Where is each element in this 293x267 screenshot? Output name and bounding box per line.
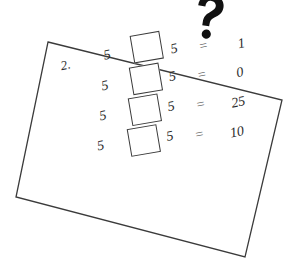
row-result: 25 (230, 94, 246, 110)
equals-sign: = (195, 97, 207, 113)
row-result: 1 (237, 36, 247, 51)
operator-box[interactable] (129, 63, 163, 96)
equals-sign: = (197, 38, 209, 54)
row-right-operand: 5 (166, 99, 176, 114)
row-right-operand: 5 (168, 69, 178, 84)
worksheet-image: 2. 5 5 = 1 5 5 = 0 5 5 = 25 5 5 = 10 (0, 0, 293, 267)
row-left-operand: 5 (98, 108, 108, 123)
operator-box[interactable] (130, 31, 164, 64)
row-left-operand: 5 (96, 138, 106, 153)
row-result: 10 (229, 124, 245, 140)
row-left-operand: 5 (102, 47, 112, 62)
operator-box[interactable] (128, 93, 162, 126)
row-right-operand: 5 (169, 41, 179, 56)
row-right-operand: 5 (165, 129, 175, 144)
equals-sign: = (193, 127, 205, 143)
row-result: 0 (235, 65, 245, 80)
item-number: 2. (59, 57, 71, 72)
equals-sign: = (196, 67, 208, 83)
row-left-operand: 5 (100, 78, 110, 93)
paper-sheet: 2. 5 5 = 1 5 5 = 0 5 5 = 25 5 5 = 10 (0, 0, 293, 267)
operator-box[interactable] (127, 124, 161, 157)
